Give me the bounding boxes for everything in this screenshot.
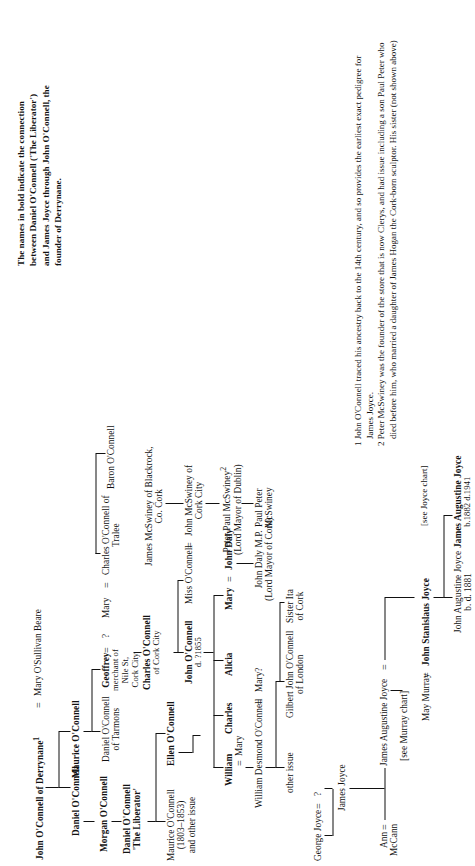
gilbert-line-2: of London xyxy=(294,631,304,718)
connector-v-jaj-author xyxy=(443,515,452,516)
connector-v-sibs-miss xyxy=(177,580,183,581)
footnote-2-line-1: Peter McSwiney was the founder of the st… xyxy=(375,43,385,440)
geoffrey-line-1: Geoffrey xyxy=(100,649,110,691)
footnote-1-line-2: James Joyce. xyxy=(364,40,376,446)
node-john-stanislaus-joyce: John Stanislaus Joyce xyxy=(420,578,430,666)
node-gilbert-john-oconnell: Gilbert John O'Connell of London xyxy=(284,631,305,718)
connector-h-baron xyxy=(95,454,96,554)
mary-tralee-name: Mary xyxy=(100,598,110,618)
node-john-daly: John Daly xyxy=(223,529,233,570)
node-james-joyce-elder: James Joyce xyxy=(336,764,346,811)
john-mcswiney-line-2: Cork City xyxy=(193,465,203,536)
marriage-symbol-desmond: = xyxy=(254,699,264,705)
footnote-1: 1 John O'Connell traced his ancestry bac… xyxy=(352,40,375,446)
john-oconnell-derrynane-name: John O'Connell of Derrynane xyxy=(34,741,44,860)
james-mcswiney-line-1: James McSwiney of Blackrock, xyxy=(143,446,153,566)
charles-tralee-line-2: Tralee xyxy=(110,495,120,575)
node-john-oconnell-d1855: John O'Connell d. ?1855 xyxy=(183,621,203,684)
john-augustine-joyce-line-2: b. d. 1881 xyxy=(462,551,472,633)
ann-mccann-line-2: McCann xyxy=(388,824,398,856)
footnote-ref-2: 2 xyxy=(218,467,227,471)
node-daniel-oconnell-tarmons: Daniel O'Connell of Tarmons xyxy=(100,696,121,762)
node-mary-q: Mary? xyxy=(253,667,263,692)
george-joyce-name: George Joyce xyxy=(312,810,322,861)
connector-v-ellen-drop xyxy=(178,752,192,753)
footnote-2-number: 2 xyxy=(375,442,385,447)
gilbert-line-1: Gilbert John O'Connell xyxy=(284,631,294,718)
connector-v-tarmons xyxy=(91,731,100,732)
header-note-line-1: The names in bold indicate the connectio… xyxy=(14,85,26,266)
daniel-tarmons-line-1: Daniel O'Connell xyxy=(100,696,110,762)
connector-h-ellen-drop xyxy=(192,736,193,753)
node-see-murray-chart: [see Murray chart] xyxy=(398,691,408,761)
jaj-elder-name: James Augustine Joyce xyxy=(378,679,388,766)
morgan-oconnell-name: Morgan O'Connell xyxy=(98,776,108,852)
connector-h-mccann-jaj xyxy=(384,768,385,820)
marriage-symbol-murray-joyce: = xyxy=(421,672,431,678)
marriage-symbol-jaj-ellen: = xyxy=(379,664,389,670)
james-joyce-elder-name: James Joyce xyxy=(336,764,346,811)
footnote-1-line-1: John O'Connell traced his ancestry back … xyxy=(352,56,362,439)
footnote-2: 2 Peter McSwiney was the founder of the … xyxy=(375,40,398,446)
john-stanislaus-joyce-name: John Stanislaus Joyce xyxy=(420,578,430,666)
connector-v-may-murray xyxy=(390,690,402,691)
william-name: William xyxy=(223,754,233,786)
marriage-symbol-william: = xyxy=(234,760,244,766)
daniel-tarmons-line-2: of Tarmons xyxy=(110,696,120,762)
connector-v-john-children xyxy=(203,652,213,653)
connector-v-charles xyxy=(213,715,223,716)
connector-h-sibs-miss xyxy=(177,581,178,653)
connector-v-sister-ita xyxy=(279,602,284,603)
node-charles-oconnell-cork: Charles O'Connell of Cork City xyxy=(141,615,161,690)
node-george-joyce: George Joyce xyxy=(312,810,322,861)
see-murray-chart-label: [see Murray chart] xyxy=(398,691,408,761)
footnote-1-number: 1 xyxy=(352,442,362,447)
connector-v-maurice-down xyxy=(83,731,91,732)
john-daly-name: John Daly xyxy=(223,529,233,570)
node-john-daly-mp: John Daly M.P. (Lord Mayor of Cork) xyxy=(253,518,274,601)
mary-w-name: Mary xyxy=(233,736,243,756)
node-charles: Charles xyxy=(223,703,233,734)
marriage-symbol-daly: = xyxy=(224,576,234,582)
connector-v-ellen-drop2 xyxy=(192,735,200,736)
header-note-line-2: between Daniel O'Connell ('The Liberator… xyxy=(26,85,38,266)
liberator-line-1: Daniel O'Connell xyxy=(121,784,131,854)
unknown-spouse-name: ? xyxy=(100,634,110,638)
connector-h-john-children xyxy=(213,596,214,768)
sister-ita-line-2: of Cork xyxy=(294,589,304,623)
liberator-line-2: 'The Liberator' xyxy=(131,784,141,854)
node-other-issue: other issue xyxy=(284,752,294,793)
node-james-augustine-joyce-author: James Augustine Joyce b.1882 d.1941 xyxy=(452,456,472,548)
geoffrey-line-3: Nile St, xyxy=(120,649,130,691)
connector-v-daly-mp xyxy=(236,563,253,564)
john-augustine-joyce-line-1: John Augustine Joyce xyxy=(452,551,462,633)
maurice-1803-line-2: (1803–1853) xyxy=(175,789,185,861)
node-unknown-spouse: ? xyxy=(100,634,110,638)
chart-header-note: The names in bold indicate the connectio… xyxy=(14,85,64,266)
connector-v-maurice xyxy=(58,731,70,732)
node-ellen-oconnell: Ellen O'Connell xyxy=(165,701,175,766)
maurice-1803-line-3: and other issue xyxy=(186,789,196,861)
connector-h-gen1 xyxy=(58,732,59,788)
node-maurice-oconnell: Maurice O'Connell xyxy=(70,700,80,778)
see-joyce-chart-label: [see Joyce chart] xyxy=(418,466,428,526)
connector-v-liberator-down xyxy=(147,821,155,822)
connector-h-jsj-children xyxy=(443,516,444,598)
connector-v-other-issue xyxy=(275,767,284,768)
connector-v-gen1 xyxy=(45,787,58,788)
connector-v-geoffrey xyxy=(91,669,100,670)
marriage-symbol-tralee: = xyxy=(101,582,111,588)
node-john-oconnell-derrynane: John O'Connell of Derrynane1 xyxy=(32,737,45,860)
maurice-1803-line-1: Maurice O'Connell xyxy=(165,789,175,861)
connector-h-sister-ita xyxy=(279,603,280,682)
node-mary-tralee: Mary xyxy=(100,598,110,618)
connector-v-daniel1-morgan xyxy=(83,821,94,822)
connector-v-maurice1803 xyxy=(155,821,165,822)
node-john-augustine-joyce: John Augustine Joyce b. d. 1881 xyxy=(452,551,473,633)
connector-v-desmond-children xyxy=(265,767,275,768)
connector-v-daniel1 xyxy=(58,787,70,788)
genealogy-chart: The names in bold indicate the connectio… xyxy=(0,0,475,866)
connector-v-jamesjoyce-jaj xyxy=(349,788,384,789)
node-miss-oconnell: Miss O'Connell xyxy=(183,545,193,604)
node-john-mcswiney-cork: John McSwiney of Cork City xyxy=(183,465,204,536)
